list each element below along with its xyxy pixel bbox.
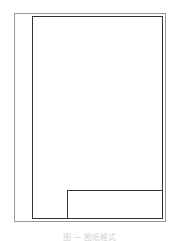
figure-caption: 图 — 图纸格式 bbox=[0, 233, 179, 241]
title-block bbox=[67, 190, 163, 219]
drawing-frame bbox=[32, 16, 163, 219]
